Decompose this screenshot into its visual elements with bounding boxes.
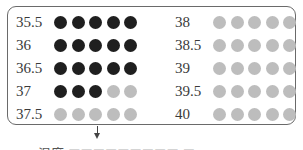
filled-dot-icon <box>107 16 120 29</box>
filled-dot-icon <box>72 62 85 75</box>
empty-dot-icon <box>213 85 226 98</box>
dot-group <box>54 108 137 121</box>
temperature-label: 37.5 <box>16 105 54 123</box>
empty-dot-icon <box>107 85 120 98</box>
temperature-label: 36 <box>16 36 54 54</box>
temperature-row: 39.5 <box>175 82 296 100</box>
temperature-row: 39 <box>175 59 296 77</box>
dot-group <box>54 62 137 75</box>
temperature-label: 35.5 <box>16 13 54 31</box>
empty-dot-icon <box>248 16 261 29</box>
filled-dot-icon <box>89 85 102 98</box>
empty-dot-icon <box>54 108 67 121</box>
filled-dot-icon <box>54 62 67 75</box>
filled-dot-icon <box>89 62 102 75</box>
empty-dot-icon <box>248 85 261 98</box>
caption-text: 温度 ■■■■■■■■■ ■ <box>38 143 195 150</box>
temperature-row: 40 <box>175 105 296 123</box>
empty-dot-icon <box>231 108 244 121</box>
empty-dot-icon <box>231 39 244 52</box>
empty-dot-icon <box>283 62 296 75</box>
filled-dot-icon <box>72 85 85 98</box>
empty-dot-icon <box>266 85 279 98</box>
empty-dot-icon <box>231 16 244 29</box>
empty-dot-icon <box>124 85 137 98</box>
empty-dot-icon <box>213 108 226 121</box>
filled-dot-icon <box>54 16 67 29</box>
pointer-arrow-icon <box>94 133 100 139</box>
filled-dot-icon <box>107 62 120 75</box>
filled-dot-icon <box>54 39 67 52</box>
empty-dot-icon <box>213 16 226 29</box>
empty-dot-icon <box>213 39 226 52</box>
empty-dot-icon <box>266 39 279 52</box>
temperature-row: 38 <box>175 13 296 31</box>
temperature-row: 38.5 <box>175 36 296 54</box>
temperature-label: 37 <box>16 82 54 100</box>
dot-group <box>54 39 137 52</box>
filled-dot-icon <box>89 39 102 52</box>
filled-dot-icon <box>72 39 85 52</box>
empty-dot-icon <box>124 108 137 121</box>
dot-group <box>213 16 296 29</box>
temperature-row: 36.5 <box>16 59 137 77</box>
temperature-label: 39.5 <box>175 82 213 100</box>
dot-group <box>54 85 137 98</box>
empty-dot-icon <box>248 62 261 75</box>
temperature-label: 38.5 <box>175 36 213 54</box>
filled-dot-icon <box>72 16 85 29</box>
filled-dot-icon <box>107 39 120 52</box>
empty-dot-icon <box>107 108 120 121</box>
temperature-label: 39 <box>175 59 213 77</box>
empty-dot-icon <box>283 39 296 52</box>
dot-group <box>213 62 296 75</box>
empty-dot-icon <box>248 39 261 52</box>
empty-dot-icon <box>72 108 85 121</box>
empty-dot-icon <box>283 85 296 98</box>
filled-dot-icon <box>89 16 102 29</box>
filled-dot-icon <box>124 62 137 75</box>
temperature-label: 36.5 <box>16 59 54 77</box>
temperature-label: 40 <box>175 105 213 123</box>
empty-dot-icon <box>266 108 279 121</box>
temperature-label: 38 <box>175 13 213 31</box>
filled-dot-icon <box>124 16 137 29</box>
empty-dot-icon <box>266 62 279 75</box>
dot-group <box>213 39 296 52</box>
temperature-row: 35.5 <box>16 13 137 31</box>
temperature-row: 36 <box>16 36 137 54</box>
dot-group <box>213 108 296 121</box>
empty-dot-icon <box>213 62 226 75</box>
empty-dot-icon <box>231 85 244 98</box>
temperature-row: 37 <box>16 82 137 100</box>
empty-dot-icon <box>266 16 279 29</box>
temperature-row: 37.5 <box>16 105 137 123</box>
empty-dot-icon <box>248 108 261 121</box>
dot-group <box>213 85 296 98</box>
filled-dot-icon <box>54 85 67 98</box>
empty-dot-icon <box>231 62 244 75</box>
empty-dot-icon <box>283 108 296 121</box>
empty-dot-icon <box>89 108 102 121</box>
empty-dot-icon <box>283 16 296 29</box>
filled-dot-icon <box>124 39 137 52</box>
dot-group <box>54 16 137 29</box>
